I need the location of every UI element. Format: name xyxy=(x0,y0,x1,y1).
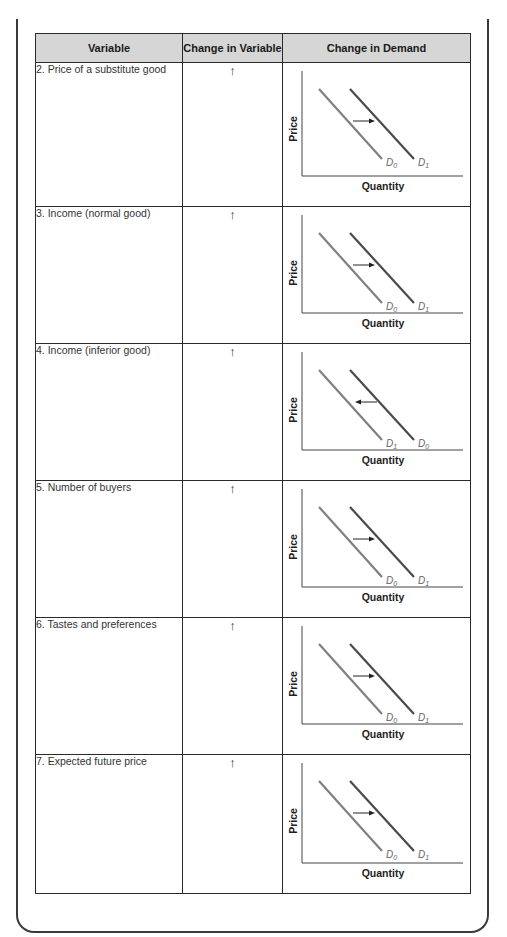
demand-shift-chart: D0D1PriceQuantity xyxy=(283,63,471,206)
variable-cell: 5. Number of buyers xyxy=(36,481,183,618)
demand-curve-right xyxy=(350,233,414,303)
demand-shift-chart: D1D0PriceQuantity xyxy=(283,344,471,480)
demand-curve-right xyxy=(350,507,414,577)
x-axis-label: Quantity xyxy=(362,454,405,466)
up-arrow-icon: ↑ xyxy=(229,63,236,78)
up-arrow-icon: ↑ xyxy=(229,755,236,770)
y-axis-label: Price xyxy=(287,534,299,560)
table-row: 6. Tastes and preferences ↑ D0D1PriceQua… xyxy=(36,618,471,755)
variable-cell: 2. Price of a substitute good xyxy=(36,63,183,207)
right-curve-label: D1 xyxy=(418,712,429,724)
y-axis-label: Price xyxy=(287,808,299,834)
header-change-in-demand: Change in Demand xyxy=(283,34,471,63)
left-curve-label: D0 xyxy=(386,712,397,724)
up-arrow-icon: ↑ xyxy=(229,207,236,222)
right-curve-label: D0 xyxy=(418,438,429,450)
x-axis-label: Quantity xyxy=(362,728,405,740)
y-axis-label: Price xyxy=(287,671,299,697)
shift-arrow-icon xyxy=(355,400,377,405)
demand-curve-right xyxy=(350,644,414,714)
demand-curve-left xyxy=(319,781,382,851)
left-curve-label: D1 xyxy=(386,438,397,450)
shift-arrow-icon xyxy=(353,263,375,268)
right-curve-label: D1 xyxy=(418,301,429,313)
demand-chart-cell: D0D1PriceQuantity xyxy=(283,207,471,344)
demand-shift-chart: D0D1PriceQuantity xyxy=(283,207,471,343)
y-axis-label: Price xyxy=(287,116,299,142)
table-row: 5. Number of buyers ↑ D0D1PriceQuantity xyxy=(36,481,471,618)
demand-curve-right xyxy=(350,781,414,851)
x-axis-label: Quantity xyxy=(362,591,405,603)
demand-chart-cell: D0D1PriceQuantity xyxy=(283,618,471,755)
demand-curve-right xyxy=(350,370,414,440)
variable-cell: 7. Expected future price xyxy=(36,755,183,894)
shift-arrow-icon xyxy=(353,537,375,542)
demand-chart-cell: D0D1PriceQuantity xyxy=(283,755,471,894)
demand-shift-chart: D0D1PriceQuantity xyxy=(283,618,471,754)
right-curve-label: D1 xyxy=(418,157,429,169)
right-curve-label: D1 xyxy=(418,849,429,861)
change-cell: ↑ xyxy=(183,344,283,481)
up-arrow-icon: ↑ xyxy=(229,344,236,359)
demand-curve-left xyxy=(319,89,382,159)
change-cell: ↑ xyxy=(183,755,283,894)
left-curve-label: D0 xyxy=(386,301,397,313)
table-row: 3. Income (normal good) ↑ D0D1PriceQuant… xyxy=(36,207,471,344)
header-row: Variable Change in Variable Change in De… xyxy=(36,34,471,63)
change-cell: ↑ xyxy=(183,481,283,618)
up-arrow-icon: ↑ xyxy=(229,618,236,633)
table-row: 4. Income (inferior good) ↑ D1D0PriceQua… xyxy=(36,344,471,481)
demand-curve-right xyxy=(350,89,414,159)
demand-chart-cell: D0D1PriceQuantity xyxy=(283,63,471,207)
header-change-in-variable: Change in Variable xyxy=(183,34,283,63)
y-axis-label: Price xyxy=(287,260,299,286)
demand-curve-left xyxy=(319,644,382,714)
change-cell: ↑ xyxy=(183,618,283,755)
variable-cell: 6. Tastes and preferences xyxy=(36,618,183,755)
shift-arrow-icon xyxy=(353,674,375,679)
demand-chart-cell: D1D0PriceQuantity xyxy=(283,344,471,481)
demand-curve-left xyxy=(319,507,382,577)
right-curve-label: D1 xyxy=(418,575,429,587)
demand-chart-cell: D0D1PriceQuantity xyxy=(283,481,471,618)
up-arrow-icon: ↑ xyxy=(229,481,236,496)
left-curve-label: D0 xyxy=(386,157,397,169)
x-axis-label: Quantity xyxy=(362,180,405,192)
table-row: 2. Price of a substitute good ↑ D0D1Pric… xyxy=(36,63,471,207)
variable-cell: 3. Income (normal good) xyxy=(36,207,183,344)
x-axis-label: Quantity xyxy=(362,867,405,879)
variable-cell: 4. Income (inferior good) xyxy=(36,344,183,481)
shift-arrow-icon xyxy=(353,811,375,816)
demand-shift-chart: D0D1PriceQuantity xyxy=(283,755,471,893)
change-cell: ↑ xyxy=(183,207,283,344)
demand-shift-chart: D0D1PriceQuantity xyxy=(283,481,471,617)
header-variable: Variable xyxy=(36,34,183,63)
change-cell: ↑ xyxy=(183,63,283,207)
demand-curve-left xyxy=(319,233,382,303)
demand-curve-left xyxy=(319,370,382,440)
left-curve-label: D0 xyxy=(386,575,397,587)
shift-arrow-icon xyxy=(353,119,375,124)
left-curve-label: D0 xyxy=(386,849,397,861)
x-axis-label: Quantity xyxy=(362,317,405,329)
y-axis-label: Price xyxy=(287,397,299,423)
demand-shifters-table: Variable Change in Variable Change in De… xyxy=(35,33,471,894)
table-row: 7. Expected future price ↑ D0D1PriceQuan… xyxy=(36,755,471,894)
